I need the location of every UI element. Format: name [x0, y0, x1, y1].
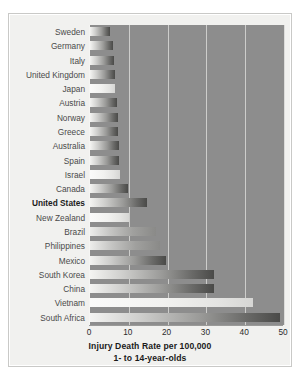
category-label: New Zealand — [13, 211, 87, 225]
bar-row — [90, 139, 284, 153]
bar-row — [90, 239, 284, 253]
bar-row — [90, 282, 284, 296]
category-label: Philippines — [13, 239, 87, 253]
category-label: United Kingdom — [13, 68, 87, 82]
bar-row — [90, 82, 284, 96]
axis-line — [89, 325, 283, 326]
category-label: Japan — [13, 82, 87, 96]
bar — [90, 156, 119, 165]
category-label: Sweden — [13, 25, 87, 39]
category-label: Norway — [13, 111, 87, 125]
bar-row — [90, 225, 284, 239]
category-label: Canada — [13, 182, 87, 196]
category-label: Australia — [13, 139, 87, 153]
bar-row — [90, 182, 284, 196]
category-label: China — [13, 282, 87, 296]
bar — [90, 213, 129, 222]
bar — [90, 170, 120, 179]
category-label: South Africa — [13, 311, 87, 325]
bar-row — [90, 125, 284, 139]
bar — [90, 227, 156, 236]
bar — [90, 284, 214, 293]
value-axis: 01020304050 — [89, 325, 283, 339]
bar-row — [90, 96, 284, 110]
bar-row — [90, 196, 284, 210]
chart-figure: SwedenGermanyItalyUnited KingdomJapanAus… — [8, 13, 292, 367]
bar — [90, 141, 119, 150]
bar-row — [90, 268, 284, 282]
x-tick-label-50: 50 — [278, 327, 287, 337]
axis-caption: Injury Death Rate per 100,000 1- to 14-y… — [9, 341, 291, 364]
category-label: Vietnam — [13, 296, 87, 310]
bar — [90, 98, 117, 107]
bar — [90, 184, 128, 193]
bar — [90, 298, 253, 307]
bar — [90, 270, 214, 279]
x-tick-label-20: 20 — [162, 327, 171, 337]
bar-row — [90, 154, 284, 168]
bar-row — [90, 68, 284, 82]
bar-row — [90, 211, 284, 225]
x-tick-label-30: 30 — [201, 327, 210, 337]
bar — [90, 113, 118, 122]
bar-row — [90, 254, 284, 268]
category-axis-labels: SwedenGermanyItalyUnited KingdomJapanAus… — [13, 25, 87, 325]
bar — [90, 41, 113, 50]
bar-row — [90, 296, 284, 310]
x-tick-label-10: 10 — [123, 327, 132, 337]
bar — [90, 198, 147, 207]
bar — [90, 56, 114, 65]
bar-rows — [90, 25, 284, 325]
gridline-50 — [284, 25, 285, 325]
caption-line-1: Injury Death Rate per 100,000 — [9, 341, 291, 353]
caption-line-2: 1- to 14-year-olds — [9, 353, 291, 365]
category-label: South Korea — [13, 268, 87, 282]
category-label: Germany — [13, 39, 87, 53]
bar-row — [90, 168, 284, 182]
category-label: Israel — [13, 168, 87, 182]
bar — [90, 70, 115, 79]
category-label: Brazil — [13, 225, 87, 239]
bar — [90, 241, 160, 250]
category-label: Mexico — [13, 254, 87, 268]
bar-row — [90, 54, 284, 68]
bar-row — [90, 311, 284, 325]
category-label: Greece — [13, 125, 87, 139]
x-tick-label-40: 40 — [240, 327, 249, 337]
bar — [90, 84, 115, 93]
bar-row — [90, 25, 284, 39]
bar — [90, 256, 166, 265]
category-label: Spain — [13, 154, 87, 168]
bar-row — [90, 111, 284, 125]
bar-row — [90, 39, 284, 53]
bar — [90, 313, 280, 322]
category-label: Austria — [13, 96, 87, 110]
plot-area — [89, 25, 284, 325]
x-tick-label-0: 0 — [87, 327, 92, 337]
bar — [90, 127, 118, 136]
category-label: United States — [13, 196, 87, 210]
bar — [90, 27, 110, 36]
category-label: Italy — [13, 54, 87, 68]
